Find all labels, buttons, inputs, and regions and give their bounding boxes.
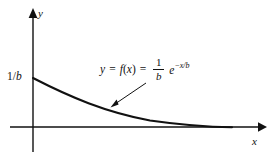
equation-lhs: y [100,64,105,76]
exponential-decay-curve [33,78,232,127]
equation-fraction: 1 b [153,57,164,82]
exponential-pdf-figure: y x 1/b y = f ( x ) = 1 b e−x/b [0,0,269,160]
equation-exponential-term: e−x/b [169,63,189,76]
y-intercept-denominator: b [16,70,22,82]
equation-pointer-line [115,83,146,104]
equation-paren-close: ) [132,64,136,76]
x-axis-label: x [252,136,257,147]
y-axis-arrowhead-icon [29,8,38,18]
y-intercept-label: 1/b [7,71,22,83]
equation-equals-first: = [109,64,116,76]
equation-equals-second: = [140,64,147,76]
equation-exponent: −x/b [174,61,189,70]
x-axis-arrowhead-icon [258,122,267,132]
equation-annotation: y = f ( x ) = 1 b e−x/b [100,57,190,82]
equation-pointer-arrowhead-icon [111,100,119,108]
equation-fraction-denominator: b [154,70,164,82]
y-axis-label: y [38,8,43,19]
equation-fraction-numerator: 1 [154,57,164,69]
